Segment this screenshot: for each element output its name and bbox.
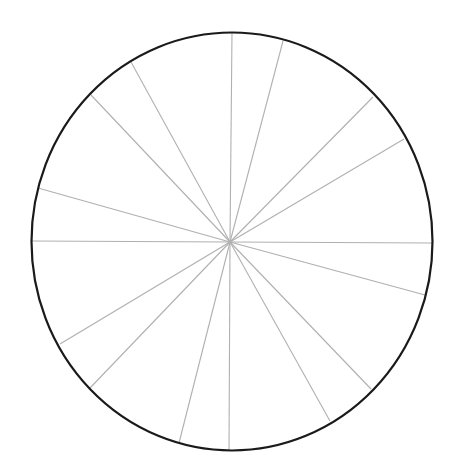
sectored-circle-diagram bbox=[0, 0, 453, 475]
